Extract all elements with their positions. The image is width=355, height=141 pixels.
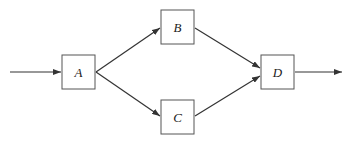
node-d: D: [261, 55, 294, 89]
flow-diagram: A B C D: [0, 0, 355, 141]
edge-b-to-d: [195, 28, 260, 68]
node-c: C: [161, 100, 194, 134]
edge-a-to-c: [96, 72, 160, 116]
node-b-label: B: [174, 20, 182, 35]
edge-a-to-b: [96, 28, 160, 72]
node-a: A: [62, 55, 95, 89]
node-a-label: A: [74, 65, 83, 80]
edge-c-to-d: [195, 76, 260, 116]
node-c-label: C: [173, 110, 182, 125]
node-b: B: [161, 10, 194, 44]
node-d-label: D: [272, 65, 283, 80]
